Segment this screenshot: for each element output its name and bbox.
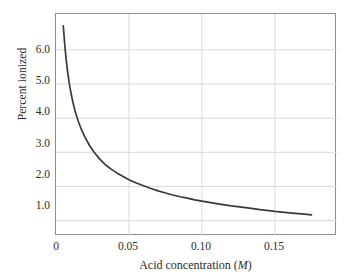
x-axis-title: Acid concentration (M) <box>55 258 336 273</box>
vertical-gridlines <box>129 14 275 236</box>
plot-area <box>55 13 336 235</box>
y-tick-label: 6.0 <box>20 43 50 55</box>
x-axis-title-text: Acid concentration ( <box>139 258 238 272</box>
y-tick-label: 3.0 <box>20 137 50 149</box>
chart-figure: Percent ionized 6.0 5.0 4.0 3.0 2.0 1.0 … <box>0 0 356 279</box>
x-axis-tick-labels: 0 0.05 0.10 0.15 <box>0 239 356 255</box>
y-tick-label: 4.0 <box>20 105 50 117</box>
plot-canvas <box>56 14 337 236</box>
x-axis-unit-symbol: M <box>238 258 248 272</box>
x-tick-label: 0.10 <box>176 239 226 253</box>
horizontal-gridlines <box>56 50 337 221</box>
y-tick-label: 1.0 <box>20 199 50 211</box>
x-tick-label: 0 <box>31 239 81 253</box>
y-tick-label: 2.0 <box>20 168 50 180</box>
y-axis-tick-labels: 6.0 5.0 4.0 3.0 2.0 1.0 <box>18 0 50 279</box>
x-tick-label: 0.05 <box>103 239 153 253</box>
x-tick-label: 0.15 <box>249 239 299 253</box>
x-axis-title-close: ) <box>248 258 252 272</box>
y-tick-label: 5.0 <box>20 74 50 86</box>
